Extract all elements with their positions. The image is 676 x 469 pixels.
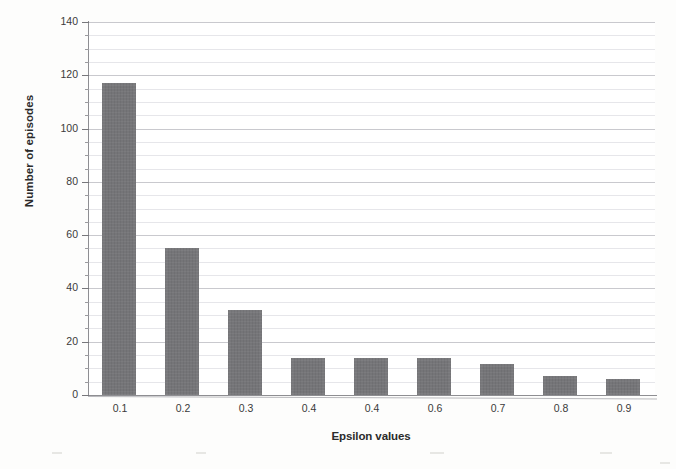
chart-page: Number of episodes 020406080100120140 0.… xyxy=(0,0,676,469)
x-tick-label: 0.8 xyxy=(539,402,583,414)
y-tick-minor xyxy=(85,315,89,316)
bar xyxy=(480,364,514,395)
y-tick-minor xyxy=(85,142,89,143)
bar xyxy=(606,379,640,395)
y-tick-minor xyxy=(85,275,89,276)
plot-area xyxy=(88,22,655,395)
x-tick-label: 0.1 xyxy=(98,402,142,414)
y-tick-minor xyxy=(85,49,89,50)
bar-series xyxy=(88,22,655,395)
bar xyxy=(291,358,325,395)
y-tick-minor xyxy=(85,115,89,116)
y-tick-major xyxy=(82,129,89,130)
y-tick-minor xyxy=(85,195,89,196)
y-tick-major xyxy=(82,342,89,343)
y-tick-major xyxy=(82,395,89,396)
x-tick-label: 0.3 xyxy=(224,402,268,414)
bar xyxy=(543,376,577,395)
x-axis-title: Epsilon values xyxy=(88,430,654,442)
y-tick-label: 80 xyxy=(34,175,78,187)
y-tick-minor xyxy=(85,382,89,383)
y-tick-major xyxy=(82,22,89,23)
bar xyxy=(228,310,262,395)
bar xyxy=(102,83,136,395)
y-tick-label: 0 xyxy=(34,388,78,400)
scan-artifact xyxy=(600,452,612,454)
x-tick-label: 0.4 xyxy=(287,402,331,414)
y-tick-minor xyxy=(85,355,89,356)
y-tick-label: 60 xyxy=(34,228,78,240)
y-tick-minor xyxy=(85,248,89,249)
bar xyxy=(417,358,451,395)
x-tick-label: 0.4 xyxy=(350,402,394,414)
y-tick-minor xyxy=(85,302,89,303)
y-tick-minor xyxy=(85,102,89,103)
y-tick-major xyxy=(82,288,89,289)
x-tick-label: 0.6 xyxy=(413,402,457,414)
y-tick-major xyxy=(82,75,89,76)
y-tick-major xyxy=(82,235,89,236)
y-tick-minor xyxy=(85,62,89,63)
y-tick-minor xyxy=(85,328,89,329)
scan-artifact xyxy=(196,452,206,454)
y-tick-minor xyxy=(85,262,89,263)
y-tick-minor xyxy=(85,35,89,36)
x-tick-label: 0.9 xyxy=(602,402,646,414)
x-axis-line-scan-artifact xyxy=(88,396,657,399)
bar xyxy=(165,248,199,395)
scan-artifact xyxy=(52,452,62,454)
y-tick-minor xyxy=(85,169,89,170)
y-tick-minor xyxy=(85,155,89,156)
y-tick-label: 100 xyxy=(34,122,78,134)
scan-artifact xyxy=(430,452,444,454)
y-axis-tick-labels: 020406080100120140 xyxy=(30,0,78,469)
y-tick-major xyxy=(82,182,89,183)
y-tick-minor xyxy=(85,209,89,210)
y-tick-minor xyxy=(85,89,89,90)
bar xyxy=(354,358,388,395)
y-tick-label: 20 xyxy=(34,335,78,347)
y-tick-label: 140 xyxy=(34,15,78,27)
y-tick-minor xyxy=(85,222,89,223)
scan-artifact xyxy=(660,462,670,464)
y-tick-label: 120 xyxy=(34,68,78,80)
x-axis-tick-labels: 0.10.20.30.40.40.60.70.80.9 xyxy=(88,402,655,424)
x-tick-label: 0.7 xyxy=(476,402,520,414)
y-tick-label: 40 xyxy=(34,281,78,293)
x-tick-label: 0.2 xyxy=(161,402,205,414)
y-tick-minor xyxy=(85,368,89,369)
